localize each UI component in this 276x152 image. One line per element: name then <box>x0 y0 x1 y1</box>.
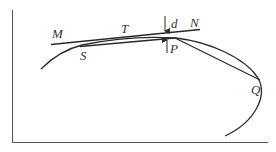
label-p: P <box>169 41 178 56</box>
label-d: d <box>171 16 178 31</box>
curve <box>41 37 261 136</box>
label-s: S <box>80 48 87 63</box>
label-n: N <box>189 15 200 30</box>
label-t: T <box>121 21 129 36</box>
label-m: M <box>51 26 64 41</box>
chord-pq <box>175 38 260 80</box>
label-q: Q <box>251 82 261 97</box>
curve-tangent-diagram: M T d N S P Q <box>0 0 276 152</box>
